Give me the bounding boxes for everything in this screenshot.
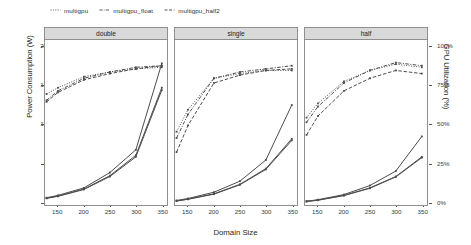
util-line-multigpu-float-marker [395, 62, 397, 64]
x-tick-double-150: 150 [46, 209, 68, 215]
power-line-multigpu-half2-marker [57, 195, 59, 197]
panel-title: single [227, 30, 244, 37]
x-tick-half-300: 300 [385, 209, 407, 215]
panel-single: single [174, 27, 298, 206]
util-line-multigpu-float-marker [306, 121, 308, 123]
x-tick-double-200: 200 [73, 209, 95, 215]
power-line-multigpu-half2-marker [109, 176, 111, 178]
util-line-multigpu-float-marker [421, 65, 423, 67]
util-line-multigpu-marker [306, 117, 308, 119]
y-tick-mark-right [429, 203, 432, 204]
panel-strip-half: half [304, 27, 428, 39]
x-tick-half-150: 150 [306, 209, 328, 215]
util-line-multigpu-marker [395, 63, 397, 65]
panel-title: double [96, 30, 116, 37]
power-line-multigpu-marker [135, 149, 137, 151]
util-line-multigpu-float-marker [187, 114, 189, 116]
panel-half: half [304, 27, 428, 206]
y-axis-left-title: Power Consumption (W) [25, 0, 34, 157]
x-tick-single-250: 250 [229, 209, 251, 215]
util-line-multigpu-half2 [177, 69, 292, 152]
util-line-multigpu-half2 [47, 66, 162, 102]
util-line-multigpu [177, 70, 292, 131]
util-line-multigpu-half2-marker [343, 90, 345, 92]
util-line-multigpu-half2-marker [176, 151, 178, 153]
power-line-multigpu [307, 136, 422, 201]
util-line-multigpu-float [47, 66, 162, 101]
dotted-line-key [50, 6, 61, 14]
panel-plot-double [44, 39, 168, 206]
x-tick-single-300: 300 [255, 209, 277, 215]
util-line-multigpu-half2 [307, 70, 422, 134]
power-line-multigpu-half2-marker [187, 198, 189, 200]
power-line-multigpu-half2-marker [343, 195, 345, 197]
util-line-multigpu-half2-marker [291, 68, 293, 70]
power-line-multigpu-half2-marker [395, 176, 397, 178]
util-line-multigpu-half2-marker [213, 82, 215, 84]
legend-item-multigpu[interactable]: multigpu [50, 6, 88, 14]
y-tick-mark-right [429, 85, 432, 86]
util-line-multigpu-float-marker [213, 77, 215, 79]
dashdot-line-key [99, 6, 110, 14]
util-line-multigpu-float-marker [57, 90, 59, 92]
x-tick-double-300: 300 [125, 209, 147, 215]
util-line-multigpu-half2-marker [421, 73, 423, 75]
legend-item-multigpu-half2[interactable]: multigpu_half2 [164, 6, 220, 14]
util-line-multigpu-half2-marker [109, 73, 111, 75]
power-line-multigpu-marker [395, 170, 397, 172]
power-line-multigpu-half2-marker [135, 156, 137, 158]
power-line-multigpu-half2-marker [306, 201, 308, 203]
x-tick-double-250: 250 [99, 209, 121, 215]
power-line-multigpu-half2-marker [239, 184, 241, 186]
x-axis-title: Domain Size [0, 228, 471, 237]
power-line-multigpu-half2 [307, 158, 422, 202]
util-line-multigpu-half2-marker [83, 79, 85, 81]
util-line-multigpu-marker [317, 103, 319, 105]
power-line-multigpu-half2-marker [213, 193, 215, 195]
power-line-multigpu-float-marker [161, 87, 163, 89]
util-line-multigpu-float-marker [135, 66, 137, 68]
power-line-multigpu-half2-marker [265, 169, 267, 171]
y-axis-right-title: GPU Utilization (%) [442, 0, 451, 157]
power-line-multigpu-half2-marker [46, 197, 48, 199]
power-line-multigpu [47, 63, 162, 197]
util-line-multigpu-half2-marker [265, 70, 267, 72]
y-tick-right-25: 25% [437, 161, 471, 167]
power-line-multigpu-half2-marker [317, 199, 319, 201]
legend-item-multigpu-float[interactable]: multigpu_float [99, 6, 153, 14]
panel-plot-single [174, 39, 298, 206]
x-tick-half-200: 200 [333, 209, 355, 215]
power-line-multigpu-float [307, 157, 422, 202]
power-line-multigpu-half2-marker [176, 200, 178, 202]
power-line-multigpu-half2 [47, 90, 162, 198]
util-line-multigpu-float-marker [239, 71, 241, 73]
util-line-multigpu-float-marker [291, 65, 293, 67]
power-line-multigpu-marker [239, 180, 241, 182]
util-line-multigpu-float-marker [317, 106, 319, 108]
panel-strip-double: double [44, 27, 168, 39]
util-line-multigpu [307, 64, 422, 117]
util-line-multigpu-marker [57, 87, 59, 89]
util-line-multigpu-half2-marker [395, 70, 397, 72]
util-line-multigpu-marker [187, 109, 189, 111]
util-line-multigpu-marker [46, 93, 48, 95]
legend-label: multigpu [64, 7, 88, 14]
util-line-multigpu-float-marker [83, 77, 85, 79]
util-line-multigpu-marker [176, 131, 178, 133]
power-line-multigpu-marker [291, 104, 293, 106]
util-line-multigpu-half2-marker [317, 115, 319, 117]
power-line-multigpu-marker [265, 159, 267, 161]
util-line-multigpu-marker [239, 73, 241, 75]
power-line-multigpu-float [47, 88, 162, 198]
panel-strip-single: single [174, 27, 298, 39]
x-tick-half-350: 350 [412, 209, 434, 215]
util-line-multigpu-half2-marker [135, 68, 137, 70]
util-line-multigpu-half2-marker [239, 74, 241, 76]
legend-label: multigpu_float [113, 7, 153, 14]
util-line-multigpu-marker [83, 76, 85, 78]
y-tick-mark-right [429, 46, 432, 47]
power-line-multigpu-float [177, 139, 292, 201]
util-line-multigpu-marker [343, 81, 345, 83]
y-tick-mark-right [429, 164, 432, 165]
power-line-multigpu-marker [161, 62, 163, 64]
